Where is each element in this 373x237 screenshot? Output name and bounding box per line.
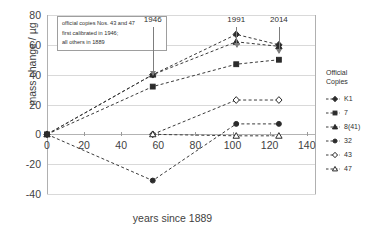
legend-item-47[interactable]: 47	[326, 162, 373, 176]
y-tick-label: 80	[29, 9, 41, 21]
series-line	[153, 100, 279, 134]
data-point	[150, 178, 155, 183]
legend-rows: K178(41)324347	[326, 92, 373, 176]
legend-marker-icon	[326, 149, 343, 161]
legend-label: 7	[343, 109, 348, 116]
data-point	[234, 121, 239, 126]
legend-title: Official Copies	[326, 68, 373, 87]
data-point	[234, 62, 239, 67]
legend-item-K1[interactable]: K1	[326, 92, 373, 106]
data-point	[45, 132, 50, 137]
data-point	[276, 121, 281, 126]
y-tick-label: 60	[29, 39, 41, 51]
legend-label: K1	[343, 95, 353, 102]
data-point	[233, 97, 239, 104]
data-point	[276, 133, 282, 139]
y-tick-label: 40	[29, 69, 41, 81]
legend-item-7[interactable]: 7	[326, 106, 373, 120]
legend-item-43[interactable]: 43	[326, 148, 373, 162]
year-1991-label: 1991	[227, 15, 245, 24]
legend-marker-icon	[326, 107, 343, 119]
legend-label: 8(41)	[343, 123, 360, 130]
legend-marker-icon	[326, 121, 343, 133]
legend-label: 43	[343, 151, 352, 158]
series-line	[47, 42, 279, 134]
legend-item-8(41)[interactable]: 8(41)	[326, 120, 373, 134]
year-1991-arrow-icon	[236, 27, 237, 47]
y-tick-label: 20	[29, 99, 41, 111]
legend: Official Copies K178(41)324347	[326, 68, 373, 176]
series-7	[45, 57, 282, 136]
series-line	[47, 124, 279, 181]
series-8(41)	[44, 39, 282, 137]
data-point	[276, 97, 282, 104]
year-2014-label: 2014	[270, 15, 288, 24]
series-43	[150, 97, 282, 138]
x-axis-title: years since 1889	[40, 212, 305, 224]
gridline-y--40	[47, 194, 316, 195]
legend-marker-icon	[326, 93, 343, 105]
legend-marker-icon	[326, 163, 343, 175]
legend-item-32[interactable]: 32	[326, 134, 373, 148]
note-line: first calibrated in 1946;	[62, 29, 163, 39]
note-line: all others in 1889	[62, 38, 163, 48]
series-line	[153, 134, 279, 135]
data-point	[150, 84, 155, 89]
year-2014-arrow-icon	[279, 27, 280, 53]
year-1946-arrow-icon	[153, 27, 154, 75]
y-tick-label: -40	[26, 188, 41, 200]
mass-change-chart: mass change / µg years since 1889 -40-20…	[0, 0, 373, 237]
legend-marker-icon	[326, 135, 343, 147]
y-tick-label: 0	[35, 128, 41, 140]
year-1946-label: 1946	[144, 15, 162, 24]
legend-label: 47	[343, 165, 352, 172]
data-point	[276, 57, 281, 62]
legend-label: 32	[343, 137, 352, 144]
y-tick-label: -20	[26, 158, 41, 170]
